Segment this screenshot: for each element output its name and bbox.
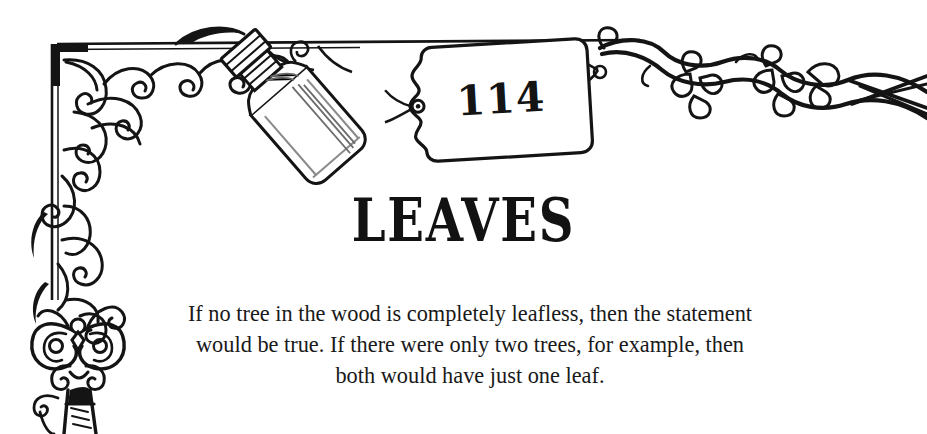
- answer-line: both would have just one leaf.: [147, 360, 793, 391]
- vine-branch-illustration: [599, 28, 927, 118]
- page-title: LEAVES: [65, 190, 862, 249]
- puzzle-page: 114 LEAVES If no tree in the wood is com…: [0, 0, 927, 434]
- answer-line: If no tree in the wood is completely lea…: [147, 298, 793, 329]
- bottle-and-string-illustration: [210, 20, 371, 189]
- answer-line: would be true. If there were only two tr…: [147, 329, 793, 360]
- skeleton-key-illustration: [32, 307, 125, 434]
- tag-number: 114: [429, 66, 572, 132]
- puzzle-answer-text: If no tree in the wood is completely lea…: [147, 298, 793, 391]
